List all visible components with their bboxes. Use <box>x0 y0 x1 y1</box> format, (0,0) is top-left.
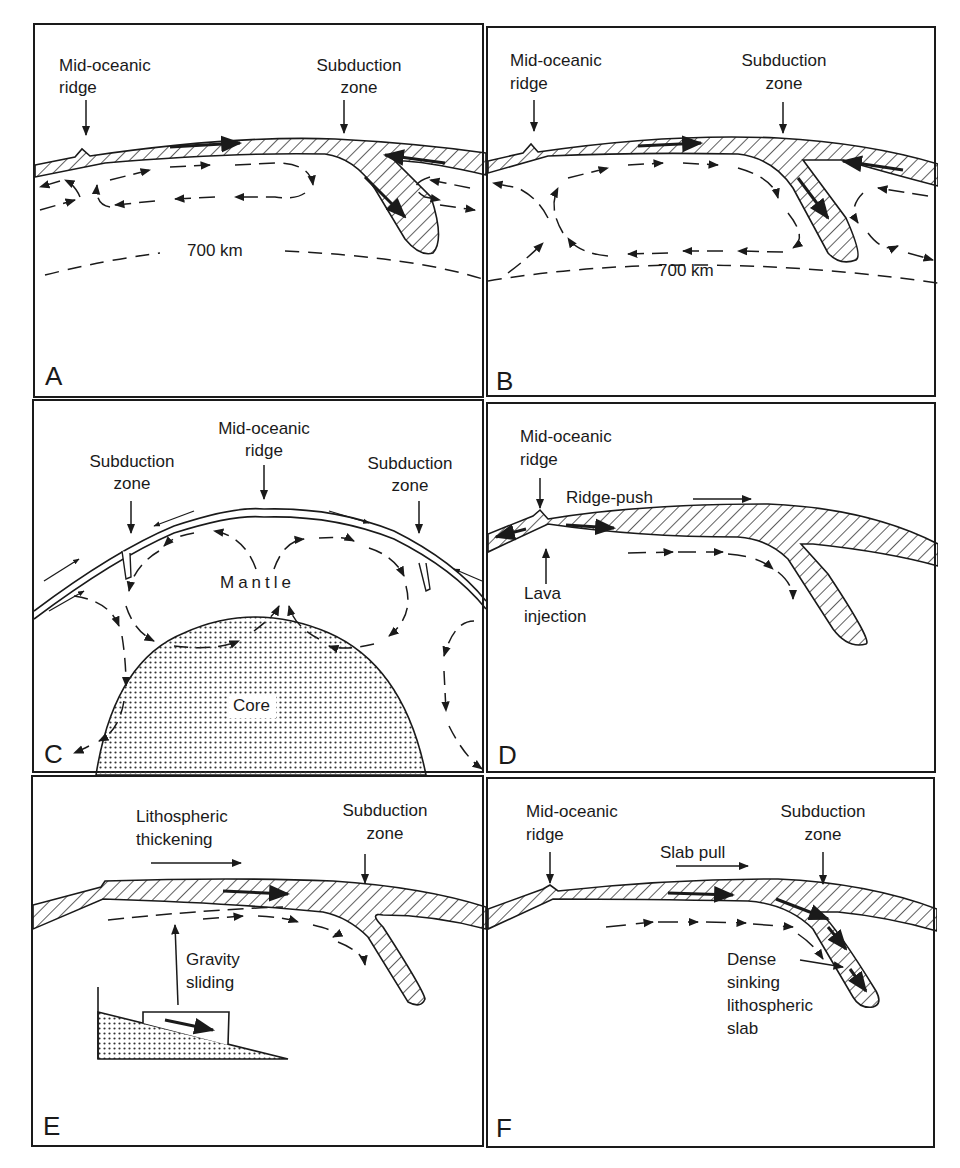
ridge-push-label: Ridge-push <box>566 488 653 508</box>
subduction-label-line1: Subduction <box>758 802 888 822</box>
slab-label-line4: slab <box>727 1019 758 1039</box>
lava-label-line2: injection <box>524 607 586 627</box>
panel-b-drawing <box>488 28 938 399</box>
subduction-label-line1: Subduction <box>297 56 421 76</box>
gravity-label-line1: Gravity <box>186 950 240 970</box>
subduction-label-line2: zone <box>297 78 421 98</box>
right-subduction-label-line2: zone <box>348 476 472 496</box>
subduction-label-line2: zone <box>758 825 888 845</box>
panel-letter: B <box>496 367 513 395</box>
panel-b: Mid-oceanic ridge Subduction zone 700 km… <box>486 26 936 397</box>
ridge-label-line2: ridge <box>59 78 97 98</box>
panel-letter: C <box>44 740 63 768</box>
ridge-label-line1: Mid-oceanic <box>520 427 612 447</box>
subduction-label-line1: Subduction <box>323 801 447 821</box>
core-label: Core <box>227 694 276 718</box>
thickening-label-line2: thickening <box>136 830 213 850</box>
slab-pull-label: Slab pull <box>660 843 725 863</box>
ridge-label-line2: ridge <box>520 450 558 470</box>
slab-label-line3: lithospheric <box>727 996 813 1016</box>
depth-label: 700 km <box>187 241 243 261</box>
right-subduction-label-line1: Subduction <box>348 454 472 474</box>
panel-e: Lithospheric thickening Subduction zone … <box>31 775 484 1147</box>
ridge-label-line1: Mid-oceanic <box>194 419 334 439</box>
gravity-label-line2: sliding <box>186 973 234 993</box>
panel-letter: A <box>45 362 62 390</box>
thickening-label-line1: Lithospheric <box>136 807 228 827</box>
left-subduction-label-line2: zone <box>70 474 194 494</box>
slab-label-line2: sinking <box>727 973 780 993</box>
left-subduction-label-line1: Subduction <box>70 452 194 472</box>
lava-label-line1: Lava <box>524 584 561 604</box>
ridge-label-line1: Mid-oceanic <box>526 802 618 822</box>
panel-letter: D <box>498 741 517 769</box>
panel-c: Mid-oceanic ridge Subduction zone Subduc… <box>32 399 484 773</box>
ridge-label-line2: ridge <box>510 74 548 94</box>
panel-letter: F <box>496 1114 512 1142</box>
depth-label: 700 km <box>658 261 714 281</box>
ridge-label-line2: ridge <box>194 441 334 461</box>
panel-letter: E <box>43 1112 60 1140</box>
ridge-label-line1: Mid-oceanic <box>510 51 602 71</box>
subduction-label-line2: zone <box>722 74 846 94</box>
panel-d: Mid-oceanic ridge Ridge-push Lava inject… <box>486 402 936 773</box>
ridge-label-line1: Mid-oceanic <box>59 56 151 76</box>
ridge-label-line2: ridge <box>526 825 564 845</box>
slab-label-line1: Dense <box>727 950 776 970</box>
mantle-label: Mantle <box>220 573 295 593</box>
subduction-label-line1: Subduction <box>722 51 846 71</box>
subduction-label-line2: zone <box>323 824 447 844</box>
panel-a: Mid-oceanic ridge Subduction zone 700 km… <box>33 23 484 398</box>
panel-f: Mid-oceanic ridge Subduction zone Slab p… <box>486 777 935 1148</box>
